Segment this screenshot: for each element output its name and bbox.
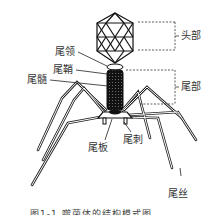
phage-head [97, 13, 133, 63]
phage-collar [107, 64, 123, 70]
label-baseplate: 尾板 [88, 142, 108, 154]
figure-caption: 图1-1 噬菌体的结构模式图 [30, 207, 152, 215]
label-sheath: 尾鞘 [53, 64, 73, 76]
label-head: 头部 [181, 30, 201, 42]
label-collar: 尾领 [55, 46, 75, 58]
phage-tail-sheath [107, 70, 123, 110]
label-core: 尾髓 [27, 74, 47, 86]
label-fiber: 尾丝 [168, 188, 188, 200]
label-spike: 尾刺 [123, 134, 143, 146]
label-tail: 尾部 [181, 81, 201, 93]
